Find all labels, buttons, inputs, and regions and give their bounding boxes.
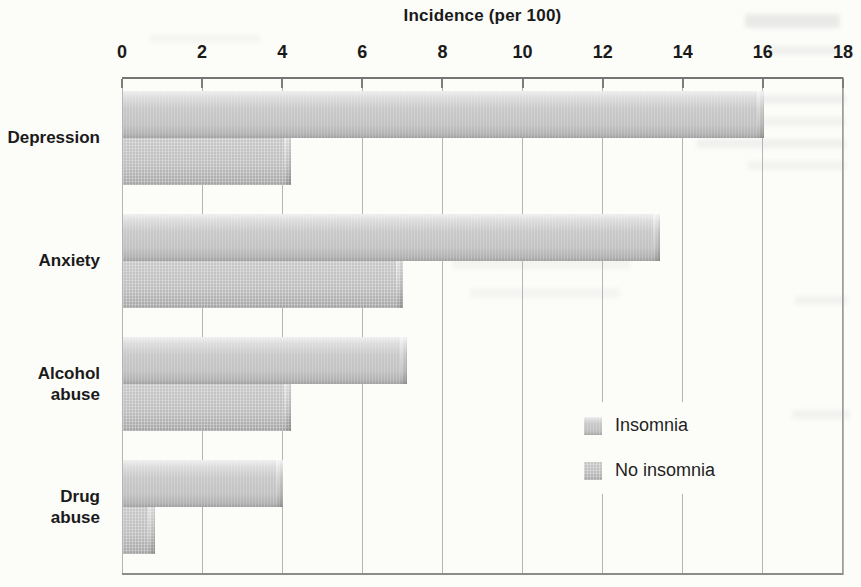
gridline-10 <box>522 77 523 575</box>
gridline-14 <box>682 77 683 575</box>
bar-drug-abuse-insomnia <box>123 460 283 507</box>
x-tick-2 <box>201 79 203 88</box>
x-axis-tick-labels: 024681012141618 <box>122 42 843 64</box>
x-tick-6 <box>361 79 363 88</box>
legend-label-insomnia: Insomnia <box>615 415 688 436</box>
bar-drug-abuse-no-insomnia <box>123 507 155 554</box>
plot-bottom-line <box>122 573 843 575</box>
legend-swatch-no-insomnia <box>584 462 602 480</box>
gridline-18 <box>843 77 844 575</box>
category-label-drug-abuse: Drug abuse <box>51 486 100 529</box>
bar-anxiety-insomnia <box>123 214 660 261</box>
gridline-16 <box>762 77 763 575</box>
bar-depression-no-insomnia <box>123 138 291 185</box>
x-tick-12 <box>602 79 604 88</box>
x-tick-8 <box>441 79 443 88</box>
legend-label-no-insomnia: No insomnia <box>615 460 715 481</box>
x-tick-label-14: 14 <box>673 42 693 62</box>
plot-area: Insomnia No insomnia <box>122 77 843 575</box>
bar-anxiety-no-insomnia <box>123 261 403 308</box>
x-tick-label-18: 18 <box>833 42 853 62</box>
gridline-8 <box>442 77 443 575</box>
x-tick-label-2: 2 <box>197 42 207 62</box>
x-axis-line <box>122 77 843 79</box>
x-tick-16 <box>762 79 764 88</box>
x-tick-14 <box>682 79 684 88</box>
x-tick-0 <box>121 79 123 88</box>
legend-item-insomnia: Insomnia <box>584 415 757 436</box>
x-tick-18 <box>842 79 844 88</box>
x-tick-label-4: 4 <box>277 42 287 62</box>
x-tick-label-12: 12 <box>593 42 613 62</box>
x-tick-label-10: 10 <box>513 42 533 62</box>
legend-item-no-insomnia: No insomnia <box>584 460 757 481</box>
x-tick-label-8: 8 <box>437 42 447 62</box>
category-label-alcohol-abuse: Alcohol abuse <box>38 363 100 406</box>
gridline-6 <box>362 77 363 575</box>
x-tick-label-6: 6 <box>357 42 367 62</box>
legend-swatch-insomnia <box>584 417 602 435</box>
category-label-anxiety: Anxiety <box>39 250 100 271</box>
x-tick-label-0: 0 <box>117 42 127 62</box>
bar-depression-insomnia <box>123 91 764 138</box>
x-tick-4 <box>281 79 283 88</box>
x-tick-10 <box>522 79 524 88</box>
scanned-book-page: Incidence (per 100) 024681012141618 Depr… <box>0 0 861 587</box>
bar-alcohol-abuse-insomnia <box>123 337 407 384</box>
legend: Insomnia No insomnia <box>572 402 757 494</box>
x-tick-label-16: 16 <box>753 42 773 62</box>
category-label-depression: Depression <box>7 127 100 148</box>
chart-title: Incidence (per 100) <box>122 6 843 26</box>
category-labels: DepressionAnxietyAlcohol abuseDrug abuse <box>0 77 112 575</box>
gridline-12 <box>602 77 603 575</box>
bar-alcohol-abuse-no-insomnia <box>123 384 291 431</box>
